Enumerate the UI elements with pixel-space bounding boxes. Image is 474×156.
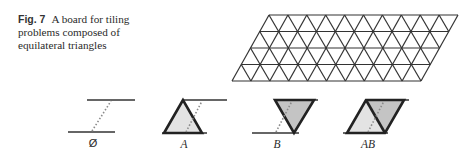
- tile-label-ab: AB: [361, 138, 375, 150]
- tile-a: [162, 100, 227, 133]
- tile-b: [252, 100, 318, 133]
- figure-canvas: [0, 0, 474, 156]
- tile-label-empty: Ø: [89, 137, 98, 149]
- tile-empty: [68, 100, 135, 132]
- tile-empty-dotted-edge: [92, 101, 111, 131]
- tile-ab: [343, 100, 409, 133]
- tile-label-b: B: [273, 138, 280, 150]
- tile-b-triangle: [275, 100, 314, 133]
- triangle-board: [232, 15, 458, 81]
- tile-label-a: A: [180, 138, 187, 150]
- tile-a-triangle: [164, 100, 202, 133]
